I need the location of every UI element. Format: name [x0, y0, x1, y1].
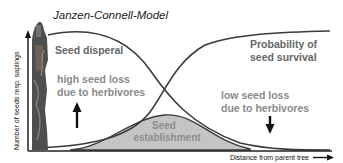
x-axis-label: Distance from parent tree — [230, 154, 309, 162]
janzen-connell-diagram: Janzen-Connell-Model Seed disperal high … — [0, 0, 343, 163]
high-loss-label-line1: high seed loss — [57, 73, 130, 85]
establishment-label-line1: Seed — [152, 120, 176, 131]
y-axis-arrow-icon — [25, 30, 31, 38]
establishment-label-line2: establishment — [133, 132, 201, 143]
high-loss-label-line2: due to herbivores — [57, 86, 145, 98]
survival-label-line1: Probability of — [250, 38, 318, 50]
low-loss-label-line2: due to herbivores — [221, 102, 309, 114]
up-arrow-icon — [73, 102, 82, 128]
diagram-title: Janzen-Connell-Model — [52, 9, 169, 21]
low-loss-label-line1: low seed loss — [221, 89, 289, 101]
parent-tree-icon — [32, 22, 48, 150]
down-arrow-icon — [266, 116, 275, 134]
y-axis-label: Number of seeds resp. saplings — [13, 51, 21, 150]
x-axis-arrow-icon — [313, 155, 334, 161]
seed-dispersal-label: Seed disperal — [55, 44, 123, 56]
survival-label-line2: seed survival — [250, 51, 317, 63]
